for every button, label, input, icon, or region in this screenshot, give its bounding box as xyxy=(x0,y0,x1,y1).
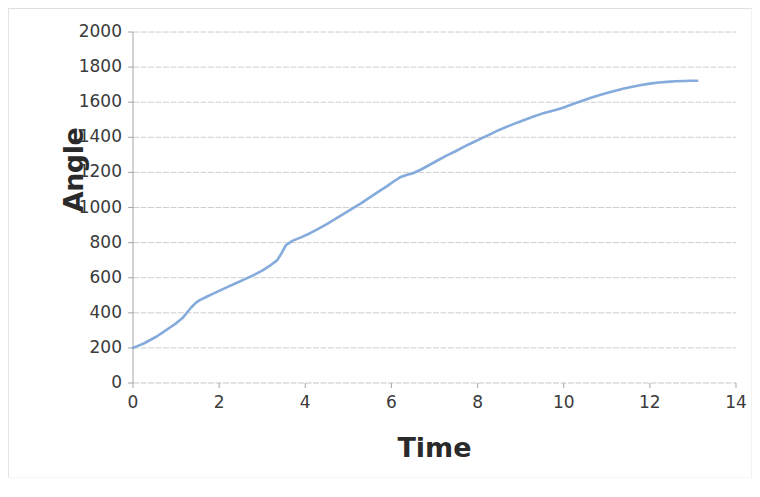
chart-page: Angle Time 02004006008001000120014001600… xyxy=(0,0,760,497)
gridlines xyxy=(133,32,736,348)
line-chart: Angle Time 02004006008001000120014001600… xyxy=(0,0,760,497)
data-series-line xyxy=(133,81,697,348)
plot-area xyxy=(0,0,760,497)
